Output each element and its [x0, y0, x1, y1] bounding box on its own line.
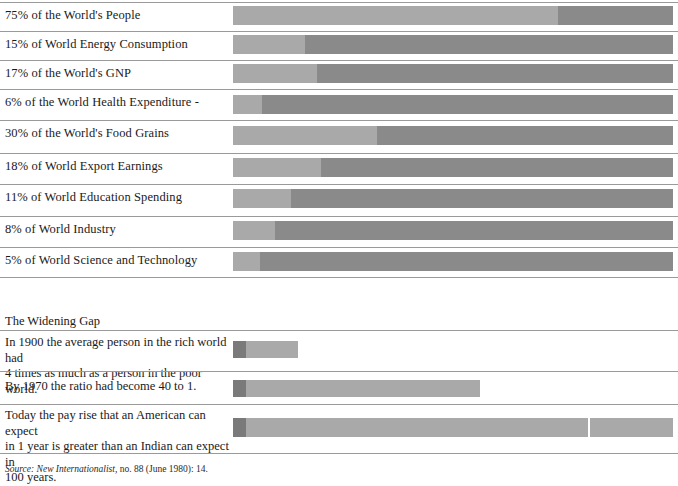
gap-bar — [233, 341, 298, 358]
table-row: 11% of World Education Spending — [0, 184, 678, 213]
bar-segment-light — [233, 158, 321, 177]
gap-row: In 1900 the average person in the rich w… — [0, 330, 678, 371]
gap-row: Today the pay rise that an American can … — [0, 404, 678, 453]
row-label: 11% of World Education Spending — [5, 190, 182, 205]
gap-bar-tail — [590, 418, 673, 437]
bar-segment-light — [233, 35, 305, 54]
gap-row: By 1970 the ratio had become 40 to 1. — [0, 371, 678, 404]
bar-segment-dark — [377, 126, 673, 145]
gap-row-line1: Today the pay rise that an American can … — [5, 408, 206, 438]
row-bar — [233, 189, 673, 208]
row-label: 30% of the World's Food Grains — [5, 126, 169, 141]
row-bar — [233, 158, 673, 177]
row-label: 6% of the World Health Expenditure - — [5, 95, 199, 110]
gap-bar-body — [246, 380, 480, 397]
table-row: 30% of the World's Food Grains — [0, 120, 678, 149]
table-row: 75% of the World's People — [0, 2, 678, 31]
source-detail: no. 88 (June 1980): 14. — [117, 464, 208, 474]
gap-bar-body — [246, 341, 298, 358]
row-bar — [233, 95, 673, 114]
bar-segment-dark — [558, 6, 673, 25]
row-bar — [233, 6, 673, 25]
row-bar — [233, 126, 673, 145]
row-label: 17% of the World's GNP — [5, 66, 131, 81]
row-bar — [233, 35, 673, 54]
row-label: 18% of World Export Earnings — [5, 159, 163, 174]
row-bar — [233, 252, 673, 271]
gap-bar-head — [233, 418, 246, 437]
gap-row-line1: By 1970 the ratio had become 40 to 1. — [5, 379, 196, 393]
gap-bar-head — [233, 341, 246, 358]
bar-segment-light — [233, 6, 558, 25]
bar-segment-light — [233, 126, 377, 145]
row-bar — [233, 64, 673, 83]
gap-row-line1: In 1900 the average person in the rich w… — [5, 335, 226, 365]
bar-segment-light — [233, 189, 291, 208]
source-prefix: Source: — [5, 464, 34, 474]
bar-segment-dark — [262, 95, 673, 114]
source-note: Source: New Internationalist, no. 88 (Ju… — [5, 464, 208, 474]
bar-segment-dark — [317, 64, 673, 83]
bar-segment-dark — [321, 158, 673, 177]
bar-segment-dark — [305, 35, 673, 54]
bar-segment-light — [233, 221, 275, 240]
row-label: 75% of the World's People — [5, 8, 140, 23]
row-bar — [233, 221, 673, 240]
row-label: 15% of World Energy Consumption — [5, 37, 188, 52]
bar-segment-light — [233, 64, 317, 83]
table-row: 6% of the World Health Expenditure - — [0, 89, 678, 118]
table-row: 17% of the World's GNP — [0, 60, 678, 89]
source-publication: New Internationalist, — [37, 464, 118, 474]
bar-segment-light — [233, 252, 260, 271]
row-label: 8% of World Industry — [5, 222, 116, 237]
section-divider — [0, 453, 678, 454]
row-label: 5% of World Science and Technology — [5, 253, 197, 268]
table-row: 15% of World Energy Consumption — [0, 31, 678, 60]
gap-bar — [233, 418, 673, 437]
gap-bar — [233, 380, 480, 397]
row-divider — [0, 277, 678, 278]
table-row: 8% of World Industry — [0, 216, 678, 245]
gap-bar-body — [246, 418, 588, 437]
bar-segment-light — [233, 95, 262, 114]
bar-segment-dark — [260, 252, 673, 271]
bar-segment-dark — [275, 221, 673, 240]
section-title: The Widening Gap — [5, 314, 100, 329]
gap-bar-head — [233, 380, 246, 397]
bar-segment-dark — [291, 189, 673, 208]
table-row: 5% of World Science and Technology — [0, 247, 678, 276]
table-row: 18% of World Export Earnings — [0, 153, 678, 182]
